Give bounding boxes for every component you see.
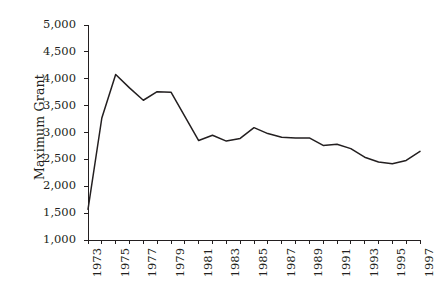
- x-axis-ticks: [88, 240, 420, 244]
- line-chart-plot: [0, 0, 442, 288]
- y-axis-ticks: [84, 25, 88, 240]
- chart-container: Maximum Grant 1,0001,5002,0002,5003,0003…: [0, 0, 442, 288]
- axes-group: [88, 25, 420, 240]
- data-series-line: [88, 74, 420, 209]
